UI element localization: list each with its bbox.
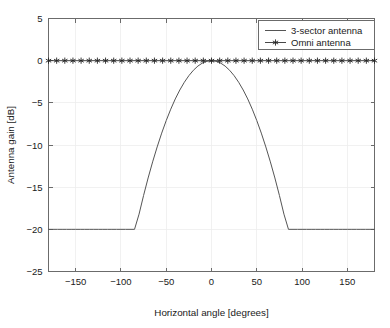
y-tick-label: 0 bbox=[37, 55, 42, 66]
x-tick-labels: −150−100−50050100150 bbox=[65, 276, 355, 287]
x-axis-label: Horizontal angle [degrees] bbox=[154, 307, 269, 318]
antenna-gain-chart-figure: −150−100−50050100150 50−5−10−15−20−25 Ho… bbox=[0, 0, 390, 328]
x-tick-label: 100 bbox=[294, 276, 310, 287]
y-tick-label: −20 bbox=[26, 224, 42, 235]
y-tick-label: −25 bbox=[26, 266, 42, 277]
x-tick-label: 0 bbox=[209, 276, 214, 287]
legend-label-omni-antenna: Omni antenna bbox=[291, 37, 351, 48]
y-tick-label: −10 bbox=[26, 140, 42, 151]
y-tick-label: −5 bbox=[32, 97, 43, 108]
x-tick-label: −50 bbox=[158, 276, 174, 287]
y-tick-label: −15 bbox=[26, 182, 42, 193]
x-tick-label: −150 bbox=[65, 276, 86, 287]
x-tick-label: 150 bbox=[339, 276, 355, 287]
x-tick-label: −100 bbox=[110, 276, 131, 287]
y-axis-label: Antenna gain [dB] bbox=[5, 106, 16, 184]
legend-label-3-sector-antenna: 3-sector antenna bbox=[291, 25, 363, 36]
y-tick-labels: 50−5−10−15−20−25 bbox=[26, 13, 42, 277]
y-tick-label: 5 bbox=[37, 13, 42, 24]
chart-canvas: −150−100−50050100150 50−5−10−15−20−25 Ho… bbox=[0, 0, 390, 328]
grid-group bbox=[49, 19, 375, 272]
x-tick-label: 50 bbox=[252, 276, 263, 287]
legend: 3-sector antenna Omni antenna bbox=[259, 21, 375, 50]
